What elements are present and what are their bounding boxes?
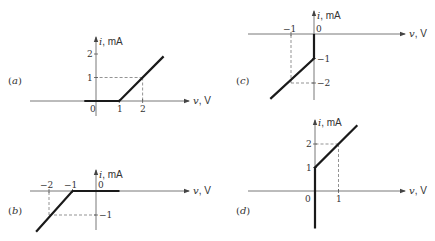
v-axis-label: v, V <box>409 185 427 196</box>
tick-label-origin: 0 <box>90 104 96 114</box>
tick-label-y: −1 <box>99 210 112 220</box>
panel-label: (d) <box>236 205 250 216</box>
iv-characteristics-figure: (a) i, mA v, V 0 1 2 1 2 (b) i, mA v, V … <box>0 0 435 241</box>
tick-label-y: 1 <box>87 73 93 83</box>
tick-label-x: −2 <box>40 180 53 190</box>
i-axis-label: i, mA <box>99 169 123 180</box>
v-axis-label: v, V <box>193 185 211 196</box>
v-axis-label: v, V <box>409 28 427 39</box>
tick-label-x: 1 <box>336 194 342 204</box>
tick-label-y: 2 <box>306 139 312 149</box>
tick-label-origin: 0 <box>305 194 311 204</box>
i-axis-label: i, mA <box>317 10 341 21</box>
panel-label: (b) <box>8 205 22 216</box>
i-axis-label: i, mA <box>318 117 342 128</box>
tick-label-x: 2 <box>140 104 146 114</box>
tick-label-y: −2 <box>317 78 330 88</box>
i-axis-label: i, mA <box>99 36 123 47</box>
tick-label-x: −1 <box>64 180 77 190</box>
plot-c: (c) i, mA v, V 0 −1 −1 −2 <box>236 10 427 100</box>
tick-label-origin: 0 <box>98 180 104 190</box>
iv-curve <box>315 125 357 228</box>
tick-label-x: −1 <box>283 24 296 34</box>
panel-label: (c) <box>236 75 250 86</box>
tick-label-y: 2 <box>87 49 93 59</box>
tick-label-origin: 0 <box>316 24 322 34</box>
tick-label-y: 1 <box>306 163 312 173</box>
iv-curve <box>270 34 314 99</box>
plot-d: (d) i, mA v, V 0 1 1 2 <box>236 117 427 229</box>
tick-label-y: −1 <box>317 54 330 64</box>
tick-label-x: 1 <box>117 104 123 114</box>
v-axis-label: v, V <box>193 95 211 106</box>
panel-label: (a) <box>8 75 22 86</box>
plot-b: (b) i, mA v, V 0 −1 −2 −1 <box>8 169 211 232</box>
plot-a: (a) i, mA v, V 0 1 2 1 2 <box>8 36 211 116</box>
